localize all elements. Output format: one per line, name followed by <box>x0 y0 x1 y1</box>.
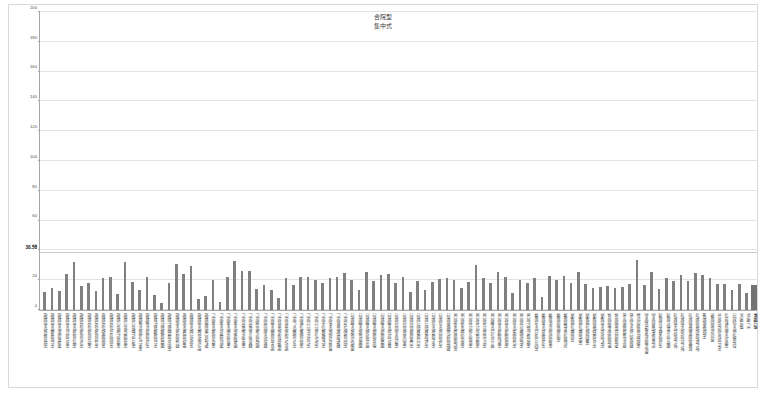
bar[interactable] <box>665 278 668 310</box>
bar-slot[interactable] <box>743 12 750 310</box>
bar[interactable] <box>460 288 463 310</box>
bar[interactable] <box>431 282 434 310</box>
bar-slot[interactable] <box>685 12 692 310</box>
bar-slot[interactable] <box>297 12 304 310</box>
bar-slot[interactable] <box>560 12 567 310</box>
bar[interactable] <box>570 283 573 310</box>
bar[interactable] <box>197 299 200 310</box>
bar-slot[interactable] <box>663 12 670 310</box>
bar-slot[interactable] <box>538 12 545 310</box>
bar-slot[interactable] <box>546 12 553 310</box>
bar-slot[interactable] <box>443 12 450 310</box>
bar[interactable] <box>365 272 368 310</box>
bar-slot[interactable] <box>180 12 187 310</box>
bar-slot[interactable] <box>202 12 209 310</box>
bar[interactable] <box>248 271 251 310</box>
bar[interactable] <box>182 274 185 311</box>
bar[interactable] <box>131 282 134 310</box>
bar-slot[interactable] <box>553 12 560 310</box>
bar-slot[interactable] <box>224 12 231 310</box>
bar[interactable] <box>497 272 500 310</box>
bar-slot[interactable] <box>714 12 721 310</box>
bar[interactable] <box>650 272 653 310</box>
bar-slot[interactable] <box>48 12 55 310</box>
bar-slot[interactable] <box>107 12 114 310</box>
bar-slot[interactable] <box>151 12 158 310</box>
bar[interactable] <box>233 261 236 310</box>
bar-slot[interactable] <box>399 12 406 310</box>
bar[interactable] <box>526 283 529 310</box>
bar-slot[interactable] <box>502 12 509 310</box>
bar-slot[interactable] <box>341 12 348 310</box>
bar[interactable] <box>489 283 492 310</box>
bar-slot[interactable] <box>429 12 436 310</box>
bar-slot[interactable] <box>187 12 194 310</box>
bar[interactable] <box>584 284 587 310</box>
bar-slot[interactable] <box>531 12 538 310</box>
bar[interactable] <box>314 280 317 310</box>
bar-slot[interactable] <box>721 12 728 310</box>
bar-slot[interactable] <box>692 12 699 310</box>
bar-slot[interactable] <box>129 12 136 310</box>
bar[interactable] <box>263 285 266 310</box>
bar-slot[interactable] <box>699 12 706 310</box>
bar[interactable] <box>138 290 141 310</box>
bar[interactable] <box>621 287 624 310</box>
bar-slot[interactable] <box>231 12 238 310</box>
bar-slot[interactable] <box>641 12 648 310</box>
bar[interactable] <box>350 280 353 310</box>
bar-slot[interactable] <box>575 12 582 310</box>
bar[interactable] <box>475 265 478 310</box>
bar[interactable] <box>606 286 609 310</box>
bar-slot[interactable] <box>165 12 172 310</box>
bar-slot[interactable] <box>407 12 414 310</box>
bar[interactable] <box>402 277 405 310</box>
bar-slot[interactable] <box>246 12 253 310</box>
bar[interactable] <box>270 290 273 310</box>
bar-slot[interactable] <box>385 12 392 310</box>
bar-slot[interactable] <box>509 12 516 310</box>
bar[interactable] <box>614 288 617 310</box>
bar[interactable] <box>738 284 741 310</box>
bar[interactable] <box>95 291 98 310</box>
bar-slot[interactable] <box>619 12 626 310</box>
bar[interactable] <box>438 279 441 310</box>
bar-slot[interactable] <box>655 12 662 310</box>
bar[interactable] <box>277 298 280 310</box>
bar[interactable] <box>416 281 419 310</box>
bar-slot[interactable] <box>451 12 458 310</box>
bar-slot[interactable] <box>568 12 575 310</box>
bar-slot[interactable] <box>604 12 611 310</box>
bar[interactable] <box>307 277 310 310</box>
bar-slot[interactable] <box>158 12 165 310</box>
bar-slot[interactable] <box>56 12 63 310</box>
bar-slot[interactable] <box>480 12 487 310</box>
bar-slot[interactable] <box>290 12 297 310</box>
bar[interactable] <box>636 260 639 310</box>
bar[interactable] <box>65 274 68 310</box>
bar[interactable] <box>102 278 105 310</box>
bar[interactable] <box>709 278 712 310</box>
bar[interactable] <box>109 277 112 310</box>
bar[interactable] <box>723 284 726 310</box>
bar-slot[interactable] <box>516 12 523 310</box>
bar[interactable] <box>599 287 602 310</box>
bar-slot[interactable] <box>173 12 180 310</box>
bar-slot[interactable] <box>611 12 618 310</box>
bar-slot[interactable] <box>41 12 48 310</box>
bar-slot[interactable] <box>728 12 735 310</box>
bar[interactable] <box>687 281 690 310</box>
bar[interactable] <box>541 297 544 310</box>
bar[interactable] <box>358 290 361 310</box>
bar-slot[interactable] <box>392 12 399 310</box>
bar-slot[interactable] <box>253 12 260 310</box>
bar-slot[interactable] <box>436 12 443 310</box>
bar-slot[interactable] <box>260 12 267 310</box>
bar[interactable] <box>409 292 412 310</box>
bar-slot[interactable] <box>326 12 333 310</box>
bar-slot[interactable] <box>143 12 150 310</box>
bar-slot[interactable] <box>736 12 743 310</box>
bar-slot[interactable] <box>282 12 289 310</box>
bar[interactable] <box>563 276 566 310</box>
bar[interactable] <box>226 277 229 310</box>
